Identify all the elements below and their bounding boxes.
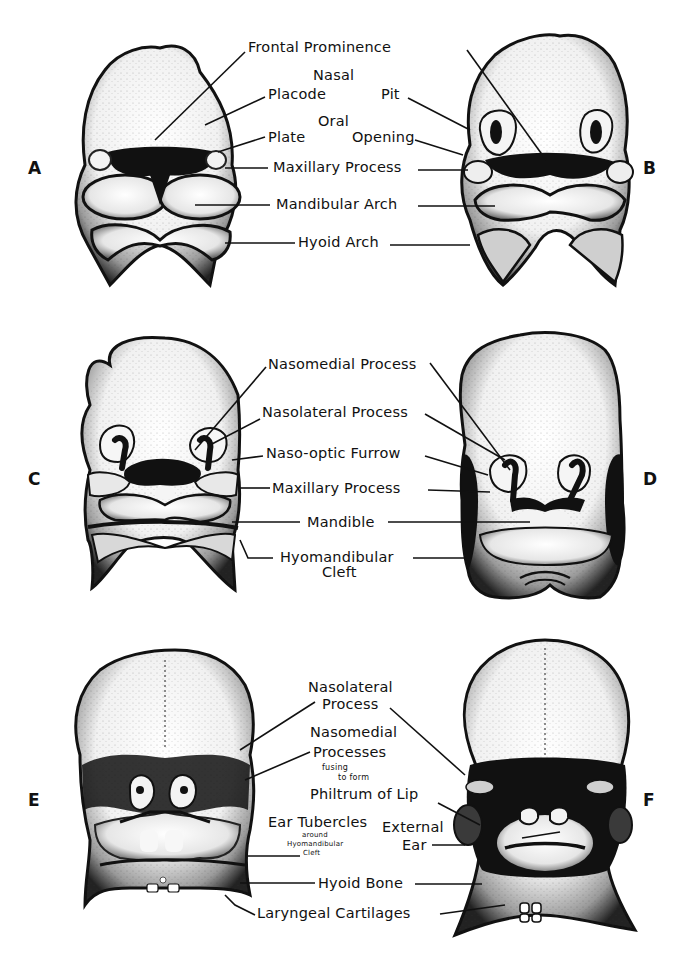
label-philtrum-of-lip: Philtrum of Lip (310, 787, 418, 802)
label-nasomedial-process: Nasomedial Process (268, 357, 417, 372)
label-plate: Plate (268, 130, 305, 145)
label-ear: Ear (402, 838, 427, 853)
label-hyomandibular-cleft-line2: Cleft (303, 850, 320, 857)
embryo-face-development-figure: A B C D E F Frontal Prominence Nasal Pla… (0, 0, 693, 959)
label-hyomandibular: Hyomandibular (280, 550, 394, 565)
label-ear-tubercles: Ear Tubercles (268, 815, 367, 830)
embryo-c (82, 337, 240, 590)
label-cleft: Cleft (322, 565, 357, 580)
label-oral: Oral (318, 114, 349, 129)
label-hyoid-bone: Hyoid Bone (318, 876, 403, 891)
embryo-d (460, 333, 624, 598)
label-laryngeal-cartilages: Laryngeal Cartilages (257, 906, 411, 921)
label-mandible: Mandible (307, 515, 375, 530)
label-placode: Placode (268, 87, 326, 102)
label-process: Process (322, 697, 378, 712)
panel-letter-c: C (28, 469, 40, 489)
panel-letter-a: A (28, 158, 41, 178)
label-to-form: to form (338, 774, 369, 782)
embryo-b (462, 35, 633, 285)
label-maxillary-process-a: Maxillary Process (273, 160, 402, 175)
label-hyoid-arch: Hyoid Arch (298, 235, 379, 250)
label-around: around (302, 832, 328, 839)
embryo-f (454, 640, 635, 935)
label-nasomedial: Nasomedial (310, 725, 397, 740)
embryo-e (76, 650, 254, 905)
label-fusing: fusing (322, 764, 348, 772)
label-nasal: Nasal (313, 68, 354, 83)
label-naso-optic-furrow: Naso-optic Furrow (266, 446, 401, 461)
label-frontal-prominence: Frontal Prominence (248, 40, 391, 55)
panel-letter-f: F (643, 790, 655, 810)
panel-letter-e: E (28, 790, 40, 810)
label-opening: Opening (352, 130, 415, 145)
label-mandibular-arch: Mandibular Arch (276, 197, 397, 212)
label-pit: Pit (381, 87, 400, 102)
label-external: External (382, 820, 444, 835)
panel-letter-d: D (643, 469, 657, 489)
label-nasolateral: Nasolateral (308, 680, 393, 695)
panel-letter-b: B (643, 158, 656, 178)
label-nasolateral-process: Nasolateral Process (262, 405, 408, 420)
label-hyomandibular-cleft-line1: Hyomandibular (287, 841, 343, 848)
label-processes: Processes (313, 745, 386, 760)
label-maxillary-process-c: Maxillary Process (272, 481, 401, 496)
